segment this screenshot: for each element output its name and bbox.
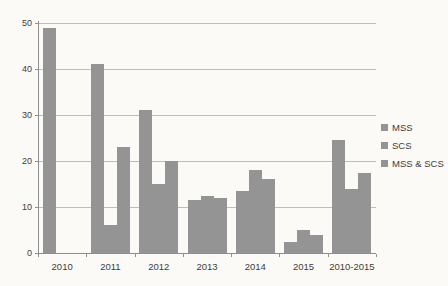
gridline bbox=[38, 115, 376, 116]
y-axis-line bbox=[38, 21, 39, 253]
x-axis-tick bbox=[279, 254, 280, 257]
gridline bbox=[38, 161, 376, 162]
y-axis-tick-label: 50 bbox=[12, 18, 32, 28]
legend-label: SCS bbox=[392, 140, 412, 151]
x-axis-category-label: 2013 bbox=[196, 261, 217, 272]
bar-scs-2010-2015 bbox=[345, 189, 358, 253]
legend-entry: SCS bbox=[381, 136, 444, 154]
y-axis-tick bbox=[35, 161, 38, 162]
bar-mss-2010-2015 bbox=[332, 140, 345, 253]
x-axis-category-label: 2010 bbox=[52, 261, 73, 272]
bar-scs-2012 bbox=[152, 184, 165, 253]
legend-swatch-icon bbox=[381, 142, 388, 149]
bar-mssscs-2011 bbox=[117, 147, 130, 253]
gridline bbox=[38, 23, 376, 24]
chart-legend: MSSSCSMSS & SCS bbox=[381, 118, 444, 172]
y-axis-tick-label: 30 bbox=[12, 110, 32, 120]
bar-scs-2014 bbox=[249, 170, 262, 253]
bar-scs-2013 bbox=[201, 196, 214, 254]
bar-mss-2012 bbox=[139, 110, 152, 253]
legend-swatch-icon bbox=[381, 124, 388, 131]
x-axis-category-label: 2012 bbox=[148, 261, 169, 272]
x-axis-tick bbox=[135, 254, 136, 257]
legend-entry: MSS bbox=[381, 118, 444, 136]
x-axis-tick bbox=[328, 254, 329, 257]
bar-mssscs-2012 bbox=[165, 161, 178, 253]
y-axis-tick-label: 10 bbox=[12, 202, 32, 212]
bar-scs-2011 bbox=[104, 225, 117, 253]
bar-scs-2015 bbox=[297, 230, 310, 253]
bar-mss-2013 bbox=[188, 200, 201, 253]
x-axis-line bbox=[38, 253, 376, 254]
y-axis-tick bbox=[35, 115, 38, 116]
gridline bbox=[38, 69, 376, 70]
legend-entry: MSS & SCS bbox=[381, 154, 444, 172]
y-axis-tick bbox=[35, 69, 38, 70]
bar-chart: 010203040502010201120122013201420152010-… bbox=[0, 0, 448, 286]
x-axis-tick bbox=[86, 254, 87, 257]
y-axis-tick bbox=[35, 207, 38, 208]
bar-mssscs-2010-2015 bbox=[358, 173, 371, 254]
bar-mssscs-2015 bbox=[310, 235, 323, 253]
x-axis-tick bbox=[183, 254, 184, 257]
x-axis-category-label: 2010-2015 bbox=[329, 261, 374, 272]
bar-mss-2014 bbox=[236, 191, 249, 253]
x-axis-category-label: 2011 bbox=[100, 261, 120, 272]
bar-mss-2015 bbox=[284, 242, 297, 254]
x-axis-tick bbox=[38, 254, 39, 257]
x-axis-category-label: 2015 bbox=[293, 261, 314, 272]
bar-mss-2011 bbox=[91, 64, 104, 253]
legend-label: MSS & SCS bbox=[392, 158, 444, 169]
legend-swatch-icon bbox=[381, 160, 388, 167]
y-axis-tick-label: 0 bbox=[12, 248, 32, 258]
bar-mssscs-2014 bbox=[262, 179, 275, 253]
y-axis-tick bbox=[35, 23, 38, 24]
legend-label: MSS bbox=[392, 122, 413, 133]
bar-mssscs-2013 bbox=[214, 198, 227, 253]
x-axis-tick bbox=[376, 254, 377, 257]
bar-mss-2010 bbox=[43, 28, 56, 253]
x-axis-category-label: 2014 bbox=[245, 261, 266, 272]
y-axis-tick-label: 40 bbox=[12, 64, 32, 74]
x-axis-tick bbox=[231, 254, 232, 257]
y-axis-tick-label: 20 bbox=[12, 156, 32, 166]
